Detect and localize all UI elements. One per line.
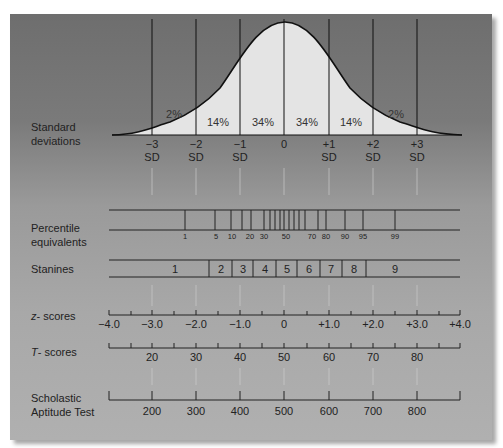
svg-text:4: 4 <box>262 263 268 275</box>
percentile-labels: 1 5 10 20 30 50 70 80 90 95 99 <box>183 232 399 241</box>
svg-text:SD: SD <box>365 151 380 163</box>
svg-text:50: 50 <box>282 232 290 241</box>
svg-text:300: 300 <box>187 405 205 417</box>
label-standard: Standard <box>31 121 76 133</box>
svg-text:400: 400 <box>231 405 249 417</box>
svg-text:6: 6 <box>306 263 312 275</box>
svg-text:5: 5 <box>214 232 218 241</box>
svg-text:95: 95 <box>359 232 367 241</box>
svg-text:−1.0: −1.0 <box>229 318 251 330</box>
svg-text:30: 30 <box>190 351 202 363</box>
label-aptitude-test: Aptitude Test <box>31 406 94 418</box>
svg-text:20: 20 <box>146 351 158 363</box>
svg-text:+1: +1 <box>323 138 336 150</box>
svg-text:1: 1 <box>183 232 187 241</box>
label-deviations: deviations <box>31 135 81 147</box>
svg-text:70: 70 <box>367 351 379 363</box>
svg-text:20: 20 <box>246 232 254 241</box>
svg-text:90: 90 <box>341 232 349 241</box>
svg-text:7: 7 <box>328 263 334 275</box>
svg-text:34%: 34% <box>296 116 318 128</box>
svg-text:2: 2 <box>218 263 224 275</box>
row-labels: Standard deviations Percentile equivalen… <box>30 121 94 418</box>
svg-text:−3: −3 <box>146 138 159 150</box>
svg-text:40: 40 <box>234 351 246 363</box>
svg-text:3: 3 <box>240 263 246 275</box>
sd-labels: −3 SD −2 SD −1 SD 0 +1 SD +2 SD +3 SD <box>144 138 424 163</box>
svg-text:600: 600 <box>320 405 338 417</box>
svg-text:200: 200 <box>143 405 161 417</box>
svg-text:+4.0: +4.0 <box>449 318 471 330</box>
svg-text:2%: 2% <box>166 108 182 120</box>
stanine-labels: 1 2 3 4 5 6 7 8 9 <box>172 263 398 275</box>
svg-text:80: 80 <box>322 232 330 241</box>
label-stanines: Stanines <box>31 263 74 275</box>
svg-text:14%: 14% <box>207 116 229 128</box>
svg-text:+3: +3 <box>411 138 424 150</box>
svg-text:−1: −1 <box>234 138 247 150</box>
svg-text:+2: +2 <box>367 138 380 150</box>
svg-text:2%: 2% <box>388 108 404 120</box>
svg-text:800: 800 <box>408 405 426 417</box>
svg-text:70: 70 <box>308 232 316 241</box>
t-axis <box>109 343 460 348</box>
svg-text:14%: 14% <box>340 116 362 128</box>
svg-text:8: 8 <box>351 263 357 275</box>
svg-text:−2.0: −2.0 <box>185 318 207 330</box>
svg-text:0: 0 <box>281 138 287 150</box>
svg-text:0: 0 <box>281 318 287 330</box>
svg-text:SD: SD <box>188 151 203 163</box>
svg-text:9: 9 <box>392 263 398 275</box>
svg-text:SD: SD <box>232 151 247 163</box>
svg-text:80: 80 <box>411 351 423 363</box>
label-z-scores: z- scores <box>30 310 76 322</box>
svg-text:−2: −2 <box>190 138 203 150</box>
svg-text:SD: SD <box>409 151 424 163</box>
svg-text:1: 1 <box>172 263 178 275</box>
z-axis <box>109 310 460 315</box>
svg-text:60: 60 <box>323 351 335 363</box>
curve-fill <box>112 22 462 135</box>
sat-axis <box>109 391 460 400</box>
label-t-scores: T- scores <box>31 346 77 358</box>
z-labels: −4.0 −3.0 −2.0 −1.0 0 +1.0 +2.0 +3.0 +4.… <box>98 318 471 330</box>
svg-text:+2.0: +2.0 <box>362 318 384 330</box>
svg-text:−4.0: −4.0 <box>98 318 120 330</box>
normal-curve-diagram: 1 5 10 20 30 50 70 80 90 95 99 1 2 3 4 5… <box>0 0 503 448</box>
label-equivalents: equivalents <box>31 236 87 248</box>
svg-text:SD: SD <box>144 151 159 163</box>
label-scholastic: Scholastic <box>31 392 82 404</box>
svg-text:34%: 34% <box>252 116 274 128</box>
svg-text:30: 30 <box>260 232 268 241</box>
t-labels: 20 30 40 50 60 70 80 <box>146 351 423 363</box>
svg-text:99: 99 <box>391 232 399 241</box>
svg-text:SD: SD <box>321 151 336 163</box>
svg-text:+1.0: +1.0 <box>318 318 340 330</box>
svg-text:5: 5 <box>284 263 290 275</box>
sat-labels: 200 300 400 500 600 700 800 <box>143 405 426 417</box>
svg-text:10: 10 <box>228 232 236 241</box>
svg-text:700: 700 <box>364 405 382 417</box>
svg-text:−3.0: −3.0 <box>141 318 163 330</box>
percentile-band <box>109 210 460 230</box>
svg-text:50: 50 <box>278 351 290 363</box>
label-percentile: Percentile <box>31 222 80 234</box>
svg-text:500: 500 <box>275 405 293 417</box>
svg-text:+3.0: +3.0 <box>406 318 428 330</box>
